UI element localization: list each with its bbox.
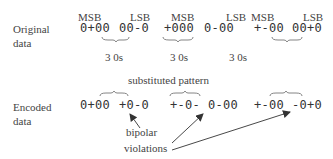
arrow-violation-2 (172, 114, 203, 143)
overbrace-2 (170, 91, 200, 96)
underbrace-2 (163, 37, 193, 42)
underbrace-3 (272, 37, 302, 42)
underbrace-1 (102, 37, 129, 42)
diagram-lines (0, 0, 333, 159)
arrow-violation-3 (172, 112, 290, 150)
arrow-violation-1 (130, 114, 140, 128)
overbrace-3 (270, 91, 302, 96)
overbrace-1 (100, 91, 128, 96)
